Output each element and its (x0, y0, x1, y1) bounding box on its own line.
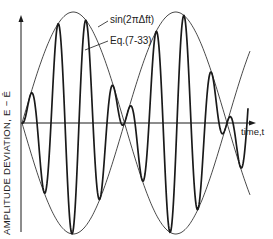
axes (19, 15, 257, 232)
carrier-annotation: Eq.(7-33) (110, 36, 152, 46)
envelope-annotation: sin(2πΔft) (110, 15, 154, 25)
carrier-wave-curve (22, 16, 248, 234)
y-axis-arrow-icon (19, 15, 24, 22)
leader-line-envelope (98, 21, 108, 27)
x-axis-label: time,t (241, 127, 264, 137)
y-axis-label: AMPLITUDE DEVIATION, E − Ē (1, 91, 12, 235)
beat-diagram: sin(2πΔft) Eq.(7-33) time,t AMPLITUDE DE… (0, 0, 273, 239)
x-axis-arrow-icon (249, 121, 256, 126)
